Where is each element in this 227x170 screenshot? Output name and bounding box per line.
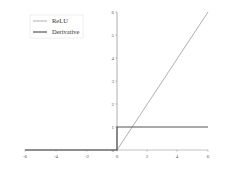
legend-label-derivative: Derivative — [52, 28, 80, 35]
derivative-line — [25, 127, 208, 150]
x-tick-label: -6 — [23, 154, 28, 159]
y-tick-label: 2 — [112, 102, 115, 107]
legend: ReLU Derivative — [30, 15, 83, 38]
y-ticks: 0 1 2 3 4 5 6 — [112, 10, 118, 153]
y-tick-label: 5 — [112, 33, 115, 38]
legend-label-relu: ReLU — [52, 17, 68, 24]
y-tick-label: 4 — [112, 56, 115, 61]
x-tick-label: 4 — [176, 154, 179, 159]
x-ticks: -6 -4 -2 0 2 4 6 — [23, 150, 210, 159]
y-tick-label: 6 — [112, 10, 115, 15]
x-tick-label: 6 — [207, 154, 210, 159]
chart-canvas: 0 1 2 3 4 5 6 -6 -4 -2 0 2 4 6 ReLU Deri… — [0, 0, 227, 170]
y-tick-label: 1 — [112, 125, 115, 130]
x-tick-label: -4 — [54, 154, 59, 159]
x-tick-label: 2 — [146, 154, 149, 159]
y-tick-label: 3 — [112, 79, 115, 84]
x-tick-label: 0 — [116, 154, 119, 159]
x-tick-label: -2 — [85, 154, 90, 159]
